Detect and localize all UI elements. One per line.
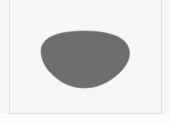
blob-shape-container [0, 0, 170, 123]
blob-svg [0, 0, 170, 123]
screenshot-root [0, 0, 170, 123]
blob-silhouette-icon [41, 31, 130, 88]
